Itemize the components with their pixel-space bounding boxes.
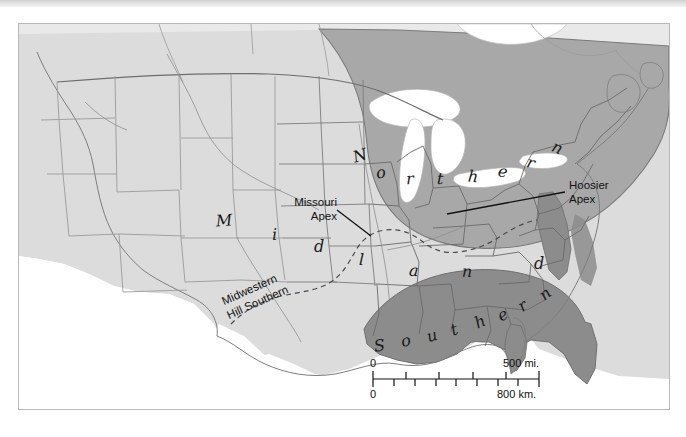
scale-km-start: 0 xyxy=(370,388,376,400)
scan-artifact-strip xyxy=(0,0,686,7)
northern-letter-1: o xyxy=(375,164,387,181)
map-page: N o r t h e r n M i d l a n d S o u t h … xyxy=(0,0,686,437)
northern-letter-4: h xyxy=(467,169,479,186)
hoosier-apex-callout: Hoosier Apex xyxy=(569,179,609,206)
midland-letter-3: l xyxy=(359,252,365,268)
northern-letter-2: r xyxy=(406,171,414,187)
missouri-apex-callout: Missouri Apex xyxy=(257,196,337,223)
scale-km-end: 800 km. xyxy=(497,388,536,400)
missouri-apex-line1: Missouri xyxy=(257,196,337,210)
scale-miles-start: 0 xyxy=(370,357,376,369)
northern-letter-3: t xyxy=(437,171,444,187)
midland-letter-1: i xyxy=(272,227,278,243)
map-canvas xyxy=(19,24,669,409)
midland-letter-0: M xyxy=(215,212,232,229)
midland-letter-6: d xyxy=(534,256,544,272)
midland-letter-5: n xyxy=(462,264,473,280)
hoosier-apex-line2: Apex xyxy=(569,193,609,207)
missouri-apex-line2: Apex xyxy=(257,210,337,224)
scale-miles-end: 500 mi. xyxy=(503,357,539,369)
map-frame: N o r t h e r n M i d l a n d S o u t h … xyxy=(18,23,670,410)
hoosier-apex-line1: Hoosier xyxy=(569,179,609,193)
midland-letter-2: d xyxy=(314,239,324,255)
midland-letter-4: a xyxy=(409,263,419,279)
southern-letter-0: S xyxy=(373,337,386,354)
